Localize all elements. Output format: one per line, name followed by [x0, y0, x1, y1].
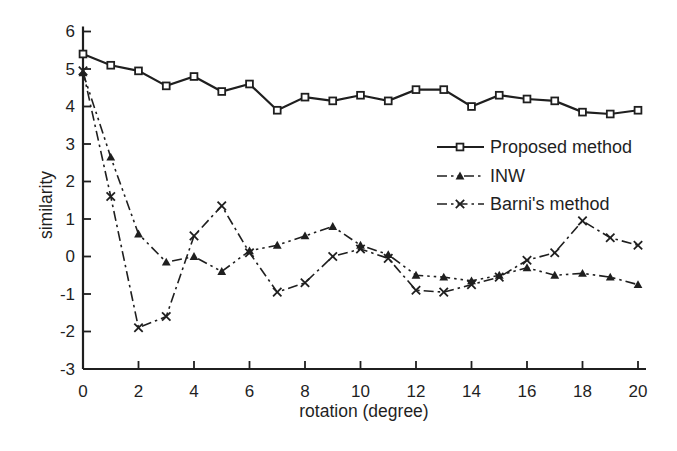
square-marker [607, 111, 614, 118]
triangle-marker [273, 241, 282, 249]
square-marker [635, 107, 642, 114]
legend-label-inw: INW [490, 166, 525, 186]
triangle-marker [190, 252, 199, 260]
square-marker [80, 51, 87, 58]
y-tick-label: 2 [66, 172, 75, 191]
square-marker [413, 86, 420, 93]
y-tick-label: 5 [66, 60, 75, 79]
legend-item-inw: INW [437, 166, 525, 186]
y-tick-label: 4 [66, 97, 75, 116]
x-tick-label: 12 [407, 382, 426, 401]
legend-item-proposed-method: Proposed method [437, 137, 632, 157]
y-tick-label: -2 [60, 322, 75, 341]
square-marker [579, 109, 586, 116]
x-tick-label: 10 [351, 382, 370, 401]
square-marker [551, 97, 558, 104]
square-marker [468, 103, 475, 110]
triangle-marker [106, 153, 115, 161]
data-series [79, 51, 643, 332]
square-marker [440, 86, 447, 93]
series-proposed-method [80, 51, 642, 118]
x-tick-label: 18 [573, 382, 592, 401]
square-marker [135, 67, 142, 74]
triangle-marker [328, 222, 337, 230]
y-tick-label: 6 [66, 22, 75, 41]
square-marker [329, 97, 336, 104]
similarity-vs-rotation-figure: -3-2-1012345602468101214161820 Proposed … [0, 0, 677, 451]
y-tick-label: 3 [66, 135, 75, 154]
square-marker [246, 81, 253, 88]
legend-label-proposed-method: Proposed method [490, 137, 632, 157]
legend-label-barni-s-method: Barni's method [490, 194, 610, 214]
square-marker [302, 94, 309, 101]
x-tick-label: 0 [78, 382, 87, 401]
square-marker [218, 88, 225, 95]
x-tick-label: 20 [629, 382, 648, 401]
legend: Proposed methodINWBarni's method [437, 137, 632, 214]
triangle-marker [456, 172, 465, 180]
x-tick-label: 2 [134, 382, 143, 401]
x-tick-label: 6 [245, 382, 254, 401]
square-marker [357, 92, 364, 99]
x-tick-label: 8 [300, 382, 309, 401]
square-marker [191, 73, 198, 80]
square-marker [496, 92, 503, 99]
y-tick-label: 1 [66, 210, 75, 229]
square-marker [457, 144, 464, 151]
triangle-marker [162, 258, 171, 266]
square-marker [524, 96, 531, 103]
triangle-marker [134, 230, 143, 238]
square-marker [385, 97, 392, 104]
y-tick-label: -3 [60, 360, 75, 379]
x-tick-label: 4 [189, 382, 198, 401]
square-marker [274, 107, 281, 114]
x-tick-label: 14 [462, 382, 481, 401]
y-tick-label: -1 [60, 285, 75, 304]
square-marker [163, 82, 170, 89]
y-tick-label: 0 [66, 247, 75, 266]
x-tick-label: 16 [518, 382, 537, 401]
similarity-line-chart: -3-2-1012345602468101214161820 Proposed … [0, 0, 677, 451]
legend-item-barni-s-method: Barni's method [437, 194, 610, 214]
y-axis-title: similarity [36, 171, 56, 239]
square-marker [107, 62, 114, 69]
x-axis-title: rotation (degree) [299, 401, 428, 421]
